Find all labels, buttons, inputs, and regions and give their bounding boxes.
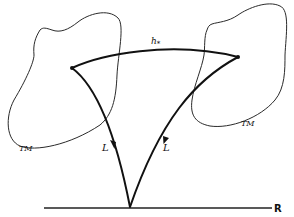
left-l-curve <box>72 68 130 207</box>
left-tm-label: TM <box>19 144 33 153</box>
left-node-dot <box>70 66 74 70</box>
right-l-curve <box>130 57 238 207</box>
left-l-label: L <box>101 142 109 153</box>
diagram-canvas: h* TM TM L L R <box>0 0 294 217</box>
right-tm-label: TM <box>241 119 255 128</box>
h-star-label: h* <box>151 36 161 48</box>
real-line-label: R <box>274 203 282 214</box>
right-node-dot <box>236 55 240 59</box>
right-tm-blob <box>192 4 287 127</box>
h-star-curve <box>72 49 238 68</box>
right-l-label: L <box>162 142 170 153</box>
left-tm-blob <box>8 13 121 148</box>
